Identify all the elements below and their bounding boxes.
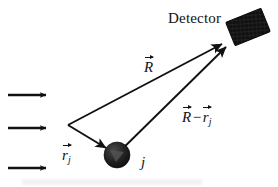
detector-label: Detector [168, 11, 221, 26]
diagram-canvas [0, 0, 278, 187]
minus-sign: − [193, 109, 201, 125]
vector-R-base: R [144, 59, 153, 75]
vector-rj-symbol: rj [203, 104, 212, 127]
vector-R-minus-rj-label: R − rj [182, 104, 211, 127]
vector-rj-base: r [62, 147, 68, 163]
detector-block [226, 8, 271, 45]
vector-rj-subscript: j [68, 154, 71, 165]
page-scan-artifact [22, 179, 202, 185]
vector-R-label: R [144, 54, 153, 76]
vector-rj-symbol: rj [62, 142, 71, 165]
vector-R-symbol: R [182, 104, 191, 126]
vector-rj-line [68, 125, 106, 148]
vector-R-minus-rj-line [112, 47, 226, 159]
vector-R-base: R [182, 109, 191, 125]
vector-rj-base: r [203, 109, 209, 125]
scatterer-index-label: j [141, 155, 145, 170]
scattering-diagram: Detector j R rj R − rj [0, 0, 278, 187]
vector-rj-subscript: j [209, 116, 212, 127]
vector-rj-label: rj [62, 142, 71, 165]
vector-R-symbol: R [144, 54, 153, 76]
scattering-atom [104, 142, 130, 168]
incident-beam-arrows [8, 95, 46, 168]
